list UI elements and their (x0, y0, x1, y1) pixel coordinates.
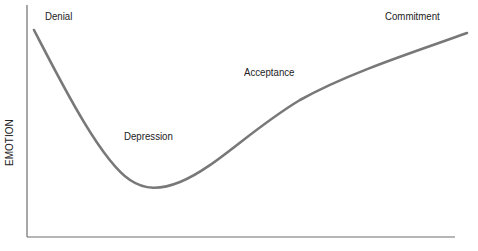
annotation-denial: Denial (45, 10, 72, 22)
annotation-depression: Depression (124, 130, 173, 142)
annotation-commitment: Commitment (385, 10, 440, 22)
emotion-curve (34, 30, 467, 188)
annotation-acceptance: Acceptance (244, 66, 294, 78)
chart-canvas (0, 0, 478, 251)
y-axis-label: EMOTION (4, 119, 15, 166)
